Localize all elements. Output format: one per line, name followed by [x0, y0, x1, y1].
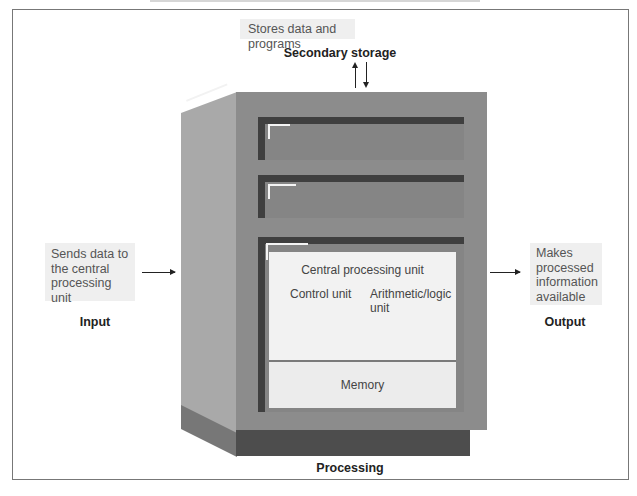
memory-label: Memory	[269, 378, 456, 392]
drawer-2-corner-highlight	[268, 184, 296, 199]
input-line-3: processing unit	[51, 276, 135, 305]
drawer-1-corner-highlight	[268, 124, 290, 139]
output-note: Makes processed information available	[530, 243, 602, 305]
input-arrow-icon	[142, 272, 175, 273]
input-note: Sends data to the central processing uni…	[45, 243, 135, 301]
arrow-down-icon	[366, 62, 367, 86]
alu-line-2: unit	[370, 301, 451, 315]
output-arrow-icon	[490, 272, 520, 273]
alu-line-1: Arithmetic/logic	[370, 287, 451, 301]
cpu-panel: Central processing unit Control unit Ari…	[269, 252, 456, 360]
control-unit-label: Control unit	[290, 287, 351, 301]
alu-label: Arithmetic/logic unit	[370, 287, 451, 315]
output-line-4: available	[536, 290, 602, 305]
secondary-storage-note: Stores data and programs	[240, 19, 355, 39]
memory-panel: Memory	[269, 360, 456, 408]
output-label: Output	[530, 315, 600, 329]
top-caption-rule	[150, 0, 480, 2]
output-line-1: Makes	[536, 246, 602, 261]
secondary-storage-label: Secondary storage	[280, 46, 400, 60]
output-line-2: processed	[536, 261, 602, 276]
cabinet-base	[236, 430, 470, 456]
arrow-up-icon	[355, 64, 356, 88]
input-line-1: Sends data to	[51, 247, 135, 262]
processing-drawer-corner-highlight	[266, 243, 308, 260]
input-label: Input	[60, 315, 130, 329]
cabinet-side-panel	[181, 92, 237, 447]
output-line-3: information	[536, 275, 602, 290]
cpu-title: Central processing unit	[269, 263, 456, 277]
processing-label: Processing	[300, 461, 400, 475]
input-line-2: the central	[51, 262, 135, 277]
